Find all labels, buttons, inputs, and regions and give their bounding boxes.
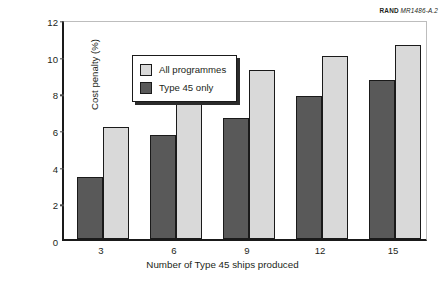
x-axis-tick-label: 9 (244, 245, 249, 256)
bar (369, 80, 395, 240)
y-axis-tick-mark (60, 95, 64, 96)
legend-item-label: All programmes (159, 64, 226, 75)
y-axis-tick-mark (60, 205, 64, 206)
chart-legend: All programmesType 45 only (132, 55, 237, 102)
figure-id-code: MR1486-A.2 (401, 7, 438, 14)
bar (103, 127, 129, 239)
bar (296, 96, 322, 239)
y-axis-tick-label: 12 (34, 17, 58, 28)
y-axis-tick-label: 8 (34, 90, 58, 101)
legend-item: Type 45 only (140, 80, 226, 95)
legend-swatch-icon (140, 82, 152, 94)
x-axis-tick-label: 3 (98, 245, 103, 256)
bar (77, 177, 103, 239)
figure-id: RAND MR1486-A.2 (380, 7, 438, 14)
chart-plot-area: Cost penalty (%) 024681012 All programme… (62, 21, 427, 241)
legend-item: All programmes (140, 62, 226, 77)
bar (395, 45, 421, 239)
y-axis-tick-label: 6 (34, 127, 58, 138)
y-axis-title: Cost penalty (%) (89, 0, 100, 155)
x-axis-tick-label: 12 (315, 245, 326, 256)
bar (150, 135, 176, 240)
bar (223, 118, 249, 239)
y-axis-tick-label: 10 (34, 53, 58, 64)
legend-item-label: Type 45 only (159, 82, 213, 93)
bar (249, 70, 275, 239)
x-axis-title: Number of Type 45 ships produced (0, 259, 445, 270)
y-axis-tick-mark (60, 131, 64, 132)
legend-swatch-icon (140, 64, 152, 76)
bar (322, 56, 348, 239)
y-axis-tick-label: 0 (34, 237, 58, 248)
bar (176, 87, 202, 239)
y-axis-tick-label: 2 (34, 200, 58, 211)
y-axis-tick-mark (60, 58, 64, 59)
figure-id-org: RAND (380, 7, 399, 14)
y-axis-tick-label: 4 (34, 163, 58, 174)
y-axis-tick-mark (60, 21, 64, 22)
y-axis-tick-mark (60, 168, 64, 169)
x-axis-tick-label: 6 (171, 245, 176, 256)
x-axis-tick-label: 15 (388, 245, 399, 256)
